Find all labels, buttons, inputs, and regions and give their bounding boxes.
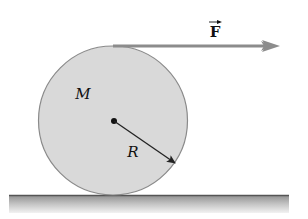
ground-surface [9, 195, 289, 213]
force-label: F [210, 23, 221, 41]
mass-label: M [74, 85, 91, 103]
force-label-group: F [209, 20, 222, 41]
diagram-canvas: F M R [0, 0, 308, 219]
radius-label: R [126, 143, 138, 161]
force-arrow [113, 45, 270, 48]
